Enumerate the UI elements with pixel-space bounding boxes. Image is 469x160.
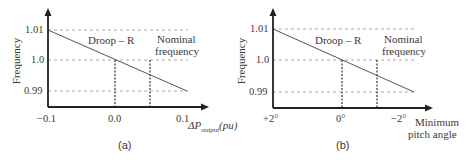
droop-annotation: Droop – R [315,35,361,46]
nominal-annotation-line2: frequency [382,46,426,57]
nominal-annotation-line2: frequency [155,46,199,57]
x-axis-label: ΔPoutput(pu) [188,120,237,134]
x-axis-label-sub: output [201,126,219,134]
x-tick: +2° [263,114,278,125]
x-tick: 0.0 [108,114,121,125]
x-axis-label-line2: pitch angle [408,129,457,140]
figure-b: Frequency 1.01 1.0 0.99 +2° 0° −2° Droop… [235,0,469,160]
y-tick: 0.99 [24,86,42,97]
x-tick: −0.1 [37,114,56,125]
figure-a: Frequency 1.01 1.0 0.99 −0.1 0.0 0.1 Dro… [0,0,235,160]
y-tick: 1.0 [31,55,44,66]
y-tick: 1.01 [250,24,268,35]
y-tick: 0.99 [249,87,267,98]
y-axis-label: Frequency [235,38,247,84]
x-axis-label-line1: Minimum [415,117,459,128]
droop-annotation: Droop – R [88,35,134,46]
y-axis-label: Frequency [10,38,22,84]
x-axis-label-prefix: ΔP [188,119,201,131]
y-tick: 1.0 [256,55,269,66]
nominal-annotation-line1: Nominal [384,34,423,45]
x-tick: −2° [391,114,406,125]
caption-b: (b) [336,140,349,151]
x-tick: 0° [336,114,345,125]
caption-a: (a) [118,140,131,151]
y-tick: 1.01 [25,25,43,36]
nominal-annotation-line1: Nominal [157,34,196,45]
